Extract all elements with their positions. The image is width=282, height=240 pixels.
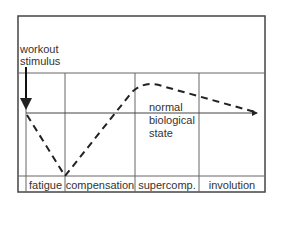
phase-supercompensation: supercomp. xyxy=(135,178,199,192)
stimulus-label-line1: workout xyxy=(20,43,59,55)
baseline-label-line2: biological xyxy=(149,114,195,126)
phase-involution: involution xyxy=(199,178,265,192)
adaptation-curve xyxy=(27,84,255,176)
baseline-label-line3: state xyxy=(149,127,173,139)
phase-fatigue: fatigue xyxy=(26,178,65,192)
phase-compensation: compensation xyxy=(65,178,135,192)
stimulus-label-line2: stimulus xyxy=(20,55,60,67)
baseline-label-line1: normal xyxy=(149,101,183,113)
